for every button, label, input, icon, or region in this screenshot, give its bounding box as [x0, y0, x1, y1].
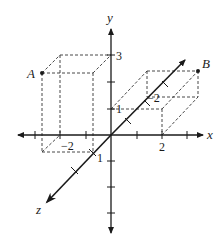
z-tick-label-neg2: −2 [147, 91, 160, 105]
z-axis-positive [47, 135, 111, 202]
y-axis-label: y [105, 10, 113, 25]
box-point-a [42, 55, 111, 152]
x-tick-label-neg2: −2 [61, 139, 74, 153]
point-a-label: A [26, 66, 35, 81]
z-tick-label-1: 1 [97, 151, 103, 165]
x-axis-label: x [206, 127, 213, 142]
diagram-canvas: y x z A B 3 1 2 −2 −2 1 [0, 0, 224, 245]
point-a-marker [40, 71, 44, 75]
point-b-marker [196, 69, 200, 73]
y-tick-label-1: 1 [116, 102, 122, 116]
axes [18, 29, 203, 233]
point-b-label: B [202, 56, 210, 71]
y-tick-label-3: 3 [116, 49, 122, 63]
z-axis-label: z [35, 202, 41, 217]
coordinate-diagram: y x z A B 3 1 2 −2 −2 1 [0, 0, 224, 245]
x-tick-label-2: 2 [159, 140, 165, 154]
